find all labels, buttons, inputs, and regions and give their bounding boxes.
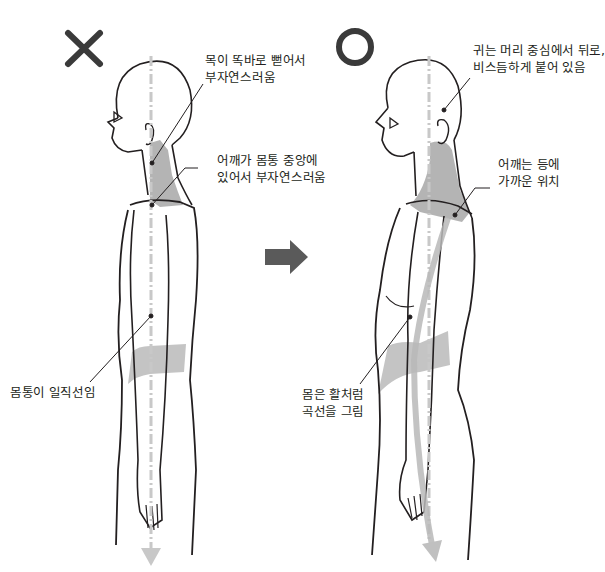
annotation-line: 목이 똑바로 뻗어서: [205, 52, 306, 69]
annotation-torso-curve: 몸은 활처럼 곡선을 그림: [302, 386, 364, 420]
annotation-shoulder-center: 어깨가 몸통 중앙에 있어서 부자연스러움: [217, 152, 326, 186]
annotation-line: 몸통이 일직선임: [10, 384, 96, 401]
down-arrow-icon: [141, 548, 161, 566]
annotation-neck-straight: 목이 똑바로 뻗어서 부자연스러움: [205, 52, 306, 86]
annotation-line: 가까운 위치: [498, 173, 560, 190]
annotation-line: 몸은 활처럼: [302, 386, 364, 403]
annotation-line: 부자연스러움: [205, 69, 306, 86]
annotation-line: 있어서 부자연스러움: [217, 169, 326, 186]
annotation-line: 귀는 머리 중심에서 뒤로,: [473, 42, 605, 59]
annotation-line: 어깨가 몸통 중앙에: [217, 152, 326, 169]
annotation-ear-position: 귀는 머리 중심에서 뒤로, 비스듬하게 붙어 있음: [473, 42, 605, 76]
bad-figure: [68, 33, 203, 566]
annotation-line: 곡선을 그림: [302, 403, 364, 420]
annotation-line: 어깨는 등에: [498, 156, 560, 173]
annotation-line: 비스듬하게 붙어 있음: [473, 59, 605, 76]
annotation-torso-straight: 몸통이 일직선임: [10, 384, 96, 401]
right-arrow-icon: [265, 240, 308, 274]
good-figure: [339, 31, 490, 562]
down-arrow-icon: [422, 540, 442, 562]
waist-highlight: [128, 344, 186, 384]
neck-highlight: [150, 140, 183, 207]
circle-icon: [339, 31, 371, 63]
annotation-shoulder-back: 어깨는 등에 가까운 위치: [498, 156, 560, 190]
neck-highlight: [410, 142, 470, 222]
cross-icon: [68, 33, 100, 64]
